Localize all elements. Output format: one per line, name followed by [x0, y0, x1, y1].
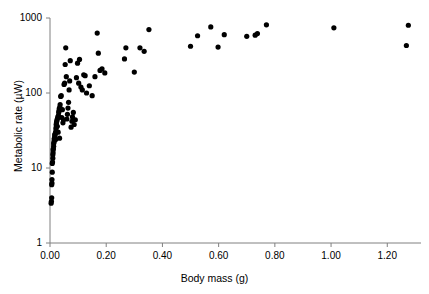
data-point: [59, 93, 64, 98]
data-point: [66, 100, 71, 105]
data-point: [95, 30, 100, 35]
data-point: [102, 70, 107, 75]
data-point: [92, 74, 97, 79]
data-point: [215, 44, 220, 49]
data-point: [67, 87, 72, 92]
data-point: [255, 31, 260, 36]
y-axis-title: Metabolic rate (µW): [12, 46, 24, 206]
scatter-plot-figure: 1101001000 0.000.200.400.600.801.001.20 …: [0, 0, 429, 294]
data-point: [208, 24, 213, 29]
y-axis-tick-label: 1000: [0, 13, 42, 23]
data-point: [137, 45, 142, 50]
data-point: [244, 34, 249, 39]
data-point: [146, 27, 151, 32]
data-point: [195, 33, 200, 38]
data-point: [83, 73, 88, 78]
data-point: [65, 105, 70, 110]
data-point: [71, 110, 76, 115]
data-point: [64, 116, 69, 121]
data-point: [222, 32, 227, 37]
data-point: [60, 107, 65, 112]
data-point: [64, 74, 69, 79]
data-point: [406, 23, 411, 28]
data-point: [49, 195, 54, 200]
x-axis-ticks: [50, 243, 387, 247]
data-point: [331, 25, 336, 30]
data-point: [84, 90, 89, 95]
data-point: [74, 75, 79, 80]
data-point: [50, 170, 55, 175]
data-point: [264, 22, 269, 27]
data-point: [58, 102, 63, 107]
data-point: [132, 69, 137, 74]
data-point: [57, 136, 62, 141]
data-points-group: [49, 22, 411, 205]
data-point: [63, 62, 68, 67]
x-axis-tick-label: 0.20: [81, 251, 131, 261]
data-point: [68, 58, 73, 63]
axes-group: [46, 18, 421, 247]
data-point: [55, 124, 60, 129]
x-axis-tick-label: 0.40: [137, 251, 187, 261]
data-point: [90, 93, 95, 98]
data-point: [142, 49, 147, 54]
data-point: [73, 117, 78, 122]
data-point: [72, 122, 77, 127]
y-axis-tick-label: 1: [0, 238, 42, 248]
x-axis-tick-label: 1.20: [362, 251, 412, 261]
x-axis-tick-label: 0.60: [194, 251, 244, 261]
data-point: [65, 112, 70, 117]
x-axis-tick-label: 0.80: [250, 251, 300, 261]
x-axis-tick-label: 0.00: [25, 251, 75, 261]
data-point: [63, 45, 68, 50]
x-axis-tick-label: 1.00: [306, 251, 356, 261]
y-axis-ticks: [46, 18, 50, 243]
data-point: [404, 43, 409, 48]
data-point: [96, 51, 101, 56]
data-point: [80, 87, 85, 92]
data-point: [87, 83, 92, 88]
data-point: [49, 177, 54, 182]
x-axis-title: Body mass (g): [0, 272, 429, 284]
data-point: [123, 45, 128, 50]
data-point: [62, 81, 67, 86]
data-point: [67, 78, 72, 83]
data-point: [188, 44, 193, 49]
data-point: [56, 130, 61, 135]
data-point: [122, 56, 127, 61]
data-point: [77, 57, 82, 62]
